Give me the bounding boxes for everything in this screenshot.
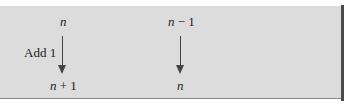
left-top-variable: n <box>60 14 67 29</box>
right-bottom-expression: n <box>177 79 184 92</box>
right-down-arrow-icon <box>176 36 185 74</box>
right-top-expression: n − 1 <box>168 15 195 28</box>
left-bottom-operator: + 1 <box>57 78 77 93</box>
left-top-expression: n <box>60 15 67 28</box>
right-top-operator: − 1 <box>175 14 195 29</box>
right-bottom-variable: n <box>177 78 184 93</box>
add-one-label: Add 1 <box>24 46 56 59</box>
right-border-rule <box>341 5 344 101</box>
left-down-arrow-icon <box>58 36 67 74</box>
left-bottom-expression: n + 1 <box>50 79 77 92</box>
